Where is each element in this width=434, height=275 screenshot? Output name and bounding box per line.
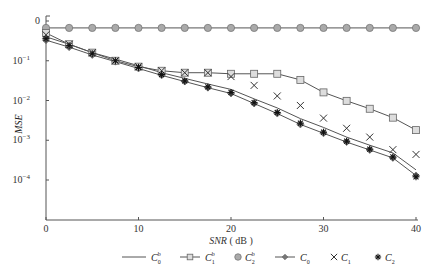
y-tick-label: 0 (35, 15, 40, 26)
y-axis-label: MSE (13, 114, 24, 134)
legend-item: C2 (375, 252, 395, 265)
legend-item: C0 (275, 252, 310, 265)
x-tick-label: 40 (411, 223, 421, 234)
legend-item: Cb0 (122, 251, 161, 265)
series-C0 (43, 37, 420, 179)
legend-label: C0 (300, 252, 310, 265)
x-tick-label: 0 (44, 223, 49, 234)
legend-label: C1 (341, 252, 351, 265)
y-tick-label: 10−2 (13, 94, 31, 106)
y-tick-label: 10−3 (13, 133, 31, 145)
mse-vs-snr-chart: 010−110−210−310−4010203040SNR ( dB )MSE … (0, 0, 434, 275)
series-C0-b (46, 37, 416, 170)
legend-item: Cb2 (235, 251, 255, 265)
y-tick-label: 10−1 (13, 54, 31, 66)
legend-item: Cb1 (180, 251, 215, 265)
axes: 010−110−210−310−4010203040SNR ( dB )MSE (13, 15, 421, 247)
plot-area (42, 24, 419, 180)
x-axis-label: SNR ( dB ) (209, 235, 253, 247)
series-C1-b (43, 29, 420, 133)
series-C2-b (42, 24, 419, 31)
legend-label: Cb1 (205, 251, 215, 265)
legend-label: C2 (385, 252, 395, 265)
legend: Cb0Cb1Cb2C0C1C2 (122, 251, 395, 265)
x-tick-label: 20 (226, 223, 236, 234)
y-tick-label: 10−4 (13, 173, 31, 185)
x-tick-label: 10 (134, 223, 144, 234)
x-tick-label: 30 (319, 223, 329, 234)
legend-item: C1 (331, 252, 351, 265)
legend-label: Cb0 (151, 251, 161, 265)
legend-label: Cb2 (245, 251, 255, 265)
